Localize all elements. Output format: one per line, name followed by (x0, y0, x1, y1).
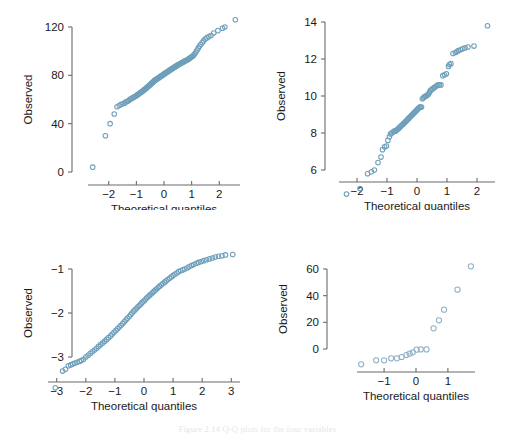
x-axis-tick-label: 1 (445, 375, 451, 387)
data-point-group (359, 264, 474, 367)
data-point (103, 133, 108, 138)
data-point (233, 17, 238, 22)
y-axis-tick-label: 0 (313, 343, 319, 355)
data-point (485, 23, 490, 28)
chart-panel-bottom-left: −1−2−3Observed−3−2−10123Theoretical quan… (0, 209, 258, 419)
data-point (389, 356, 394, 361)
data-point (230, 252, 235, 257)
y-axis-title: Observed (22, 288, 34, 338)
y-axis-tick-label: 8 (311, 127, 317, 139)
y-axis-tick-label: 40 (51, 118, 64, 130)
chart-panel-top-left: 04080120Observed−2−1012Theoretical quant… (0, 0, 258, 210)
y-axis-tick-label: 0 (58, 166, 64, 178)
data-point (108, 121, 113, 126)
data-point (436, 318, 441, 323)
y-axis-tick-label: 6 (311, 164, 317, 176)
chart-panel-top-right: 68101214Observed−2−1012Theoretical quant… (257, 0, 515, 210)
data-point (424, 347, 429, 352)
x-axis-tick-label: 3 (228, 385, 234, 397)
x-axis-tick-label: −2 (102, 188, 115, 200)
data-point (441, 307, 446, 312)
y-axis-tick-label: 14 (304, 16, 317, 28)
y-axis-tick-label: −3 (51, 351, 64, 363)
x-axis-tick-label: 2 (199, 385, 205, 397)
data-point (112, 112, 117, 117)
x-axis-title: Theoretical quantiles (91, 400, 197, 412)
data-point (466, 45, 471, 50)
data-point (90, 165, 95, 170)
x-axis-tick-label: −1 (380, 185, 393, 197)
x-axis-tick-label: −1 (130, 188, 143, 200)
x-axis-tick-label: 1 (170, 385, 176, 397)
data-point (216, 28, 221, 33)
qq-plot-figure: 04080120Observed−2−1012Theoretical quant… (0, 0, 515, 440)
data-point (455, 287, 460, 292)
data-point (344, 192, 349, 197)
y-axis-tick-label: −2 (51, 307, 64, 319)
x-axis-tick-label: −3 (50, 385, 63, 397)
data-point (468, 264, 473, 269)
y-axis-tick-label: 120 (45, 21, 64, 33)
data-point (382, 358, 387, 363)
data-point (472, 44, 477, 49)
x-axis-tick-label: 0 (414, 185, 420, 197)
data-point (374, 358, 379, 363)
y-axis-tick-label: −1 (51, 263, 64, 275)
x-axis-tick-label: 0 (161, 188, 167, 200)
qq-scatter-plot: 0204060Observed−101Theoretical quantiles (257, 209, 515, 419)
data-point-group (90, 17, 237, 169)
y-axis-title: Observed (277, 284, 289, 334)
x-axis-tick-label: 2 (216, 188, 222, 200)
x-axis-tick-label: 1 (444, 185, 450, 197)
x-axis-tick-label: 2 (474, 185, 480, 197)
y-axis-tick-label: 40 (306, 290, 319, 302)
x-axis-tick-label: −1 (378, 375, 391, 387)
chart-panel-bottom-right: 0204060Observed−101Theoretical quantiles (257, 209, 515, 419)
y-axis-tick-label: 60 (306, 263, 319, 275)
data-point (404, 352, 409, 357)
y-axis-tick-label: 10 (304, 90, 317, 102)
y-axis-tick-label: 12 (304, 53, 317, 65)
y-axis-tick-label: 20 (306, 316, 319, 328)
y-axis-title: Observed (275, 71, 287, 121)
data-point (407, 351, 412, 356)
qq-scatter-plot: 04080120Observed−2−1012Theoretical quant… (0, 0, 258, 210)
data-point (376, 160, 381, 165)
x-axis-tick-label: 0 (413, 375, 419, 387)
y-axis-title: Observed (22, 75, 34, 125)
x-axis-title: Theoretical quantiles (363, 390, 469, 402)
x-axis-tick-label: 0 (141, 385, 147, 397)
data-point-group (344, 23, 490, 196)
data-point (431, 326, 436, 331)
qq-scatter-plot: −1−2−3Observed−3−2−10123Theoretical quan… (0, 209, 258, 419)
y-axis-tick-label: 80 (51, 69, 64, 81)
figure-caption: Figure 2.14 Q-Q plots for the four varia… (0, 424, 515, 440)
x-axis-tick-label: 1 (188, 188, 194, 200)
qq-scatter-plot: 68101214Observed−2−1012Theoretical quant… (257, 0, 515, 210)
x-axis-tick-label: −2 (79, 385, 92, 397)
data-point-group (53, 252, 235, 390)
data-point (359, 362, 364, 367)
data-point (379, 155, 384, 160)
x-axis-tick-label: −1 (108, 385, 121, 397)
